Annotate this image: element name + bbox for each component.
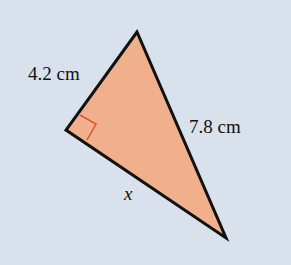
label-short-leg: 4.2 cm [28,63,80,84]
label-hypotenuse: 7.8 cm [189,116,241,137]
label-unknown-leg: x [123,183,133,204]
triangle-diagram: 4.2 cm 7.8 cm x [0,0,291,265]
